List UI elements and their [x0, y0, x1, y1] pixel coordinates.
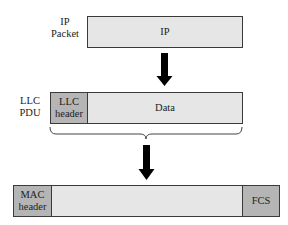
- down-arrow-icon-1: [157, 53, 173, 86]
- curly-brace-icon: [50, 127, 242, 139]
- diagram-overlay: [0, 0, 288, 225]
- down-arrow-icon-2: [139, 145, 155, 180]
